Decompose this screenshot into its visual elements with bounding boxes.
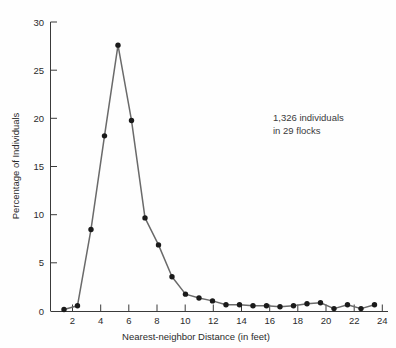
data-point bbox=[223, 302, 228, 307]
x-tick-label-16: 16 bbox=[264, 315, 275, 326]
data-point bbox=[210, 298, 215, 303]
x-tick-label-14: 14 bbox=[236, 315, 247, 326]
y-tick-label-25: 25 bbox=[33, 65, 44, 76]
data-point bbox=[277, 304, 282, 309]
y-tick-label-30: 30 bbox=[33, 17, 44, 28]
x-tick-label-10: 10 bbox=[180, 315, 191, 326]
data-point bbox=[331, 306, 336, 311]
y-tick-label-20: 20 bbox=[33, 113, 44, 124]
sample-size-annotation: 1,326 individuals in 29 flocks bbox=[273, 112, 344, 136]
y-axis-ticks bbox=[51, 22, 58, 263]
data-point bbox=[142, 215, 147, 220]
x-tick-label-18: 18 bbox=[293, 315, 304, 326]
x-tick-label-20: 20 bbox=[321, 315, 332, 326]
data-point bbox=[156, 242, 161, 247]
nearest-neighbor-distance-line-chart: 30 25 20 15 10 5 0 2 4 6 bbox=[0, 0, 396, 348]
data-point bbox=[291, 303, 296, 308]
data-point bbox=[75, 303, 80, 308]
series-markers-group bbox=[61, 42, 377, 312]
x-axis-title: Nearest-neighbor Distance (in feet) bbox=[122, 331, 270, 342]
y-axis-title: Percentage of Individuals bbox=[10, 112, 21, 219]
x-tick-label-2: 2 bbox=[70, 315, 75, 326]
y-tick-label-15: 15 bbox=[33, 161, 44, 172]
data-point bbox=[318, 300, 323, 305]
data-point bbox=[61, 307, 66, 312]
x-tick-label-4: 4 bbox=[98, 315, 103, 326]
data-point bbox=[264, 303, 269, 308]
data-point bbox=[304, 301, 309, 306]
x-tick-label-8: 8 bbox=[154, 315, 159, 326]
y-tick-label-10: 10 bbox=[33, 209, 44, 220]
data-point bbox=[237, 302, 242, 307]
data-point bbox=[129, 118, 134, 123]
y-tick-label-0: 0 bbox=[39, 306, 44, 317]
data-point bbox=[183, 291, 188, 296]
chart-figure: 30 25 20 15 10 5 0 2 4 6 bbox=[0, 0, 396, 348]
data-point bbox=[196, 295, 201, 300]
x-tick-label-22: 22 bbox=[349, 315, 360, 326]
annotation-line-1: 1,326 individuals bbox=[273, 112, 344, 123]
data-point bbox=[358, 306, 363, 311]
data-point bbox=[169, 274, 174, 279]
data-point bbox=[345, 302, 350, 307]
data-point bbox=[115, 42, 120, 47]
data-point bbox=[102, 133, 107, 138]
series-line-percentage bbox=[64, 45, 375, 309]
y-axis-tick-labels: 30 25 20 15 10 5 0 bbox=[33, 17, 44, 317]
data-point bbox=[88, 227, 93, 232]
x-axis-tick-labels: 2 4 6 8 10 12 14 16 18 20 22 24 bbox=[70, 315, 388, 326]
x-tick-label-12: 12 bbox=[208, 315, 219, 326]
x-tick-label-24: 24 bbox=[377, 315, 388, 326]
data-point bbox=[372, 302, 377, 307]
annotation-line-2: in 29 flocks bbox=[273, 125, 321, 136]
y-tick-label-5: 5 bbox=[39, 257, 44, 268]
x-tick-label-6: 6 bbox=[126, 315, 131, 326]
data-point bbox=[250, 303, 255, 308]
